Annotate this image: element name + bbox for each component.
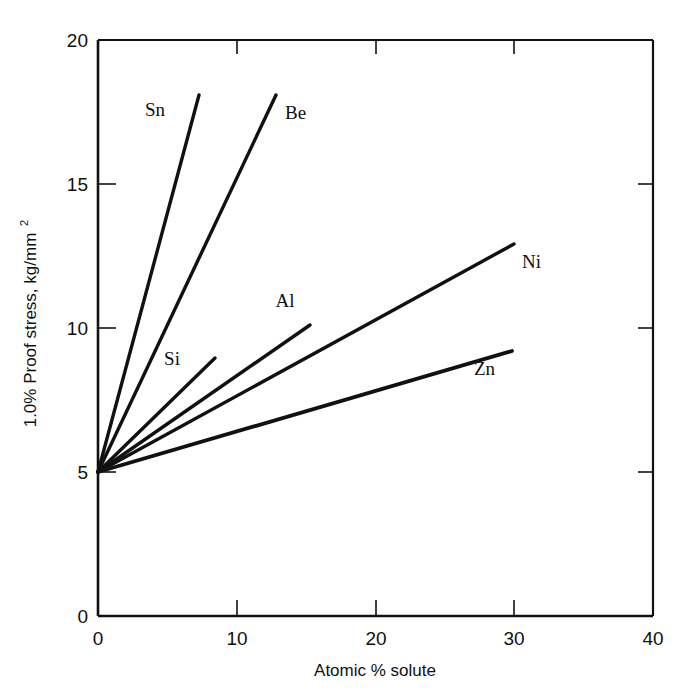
series-label-sn: Sn bbox=[145, 99, 166, 120]
y-axis-ticks-right bbox=[638, 184, 653, 472]
series-label-al: Al bbox=[276, 290, 295, 311]
x-axis-title: Atomic % solute bbox=[314, 661, 436, 680]
series-lines bbox=[98, 95, 514, 472]
y-tick-label-10: 10 bbox=[67, 318, 88, 339]
x-tick-labels: 0 10 20 30 40 bbox=[93, 628, 664, 649]
x-axis-title-group: Atomic % solute bbox=[314, 661, 436, 680]
x-tick-label-20: 20 bbox=[365, 628, 386, 649]
series-label-be: Be bbox=[285, 102, 306, 123]
chart-figure: 20 15 10 5 0 0 10 20 30 40 Atomic % solu… bbox=[0, 0, 683, 696]
y-axis-title-superscript: 2 bbox=[18, 220, 30, 226]
y-tick-label-15: 15 bbox=[67, 174, 88, 195]
x-axis-ticks-top bbox=[237, 40, 514, 54]
plot-frame bbox=[98, 40, 653, 616]
series-line-be bbox=[98, 95, 276, 472]
series-line-sn bbox=[98, 95, 199, 472]
x-tick-label-40: 40 bbox=[642, 628, 663, 649]
series-line-ni bbox=[98, 244, 514, 472]
y-tick-label-0: 0 bbox=[77, 606, 88, 627]
x-tick-label-30: 30 bbox=[503, 628, 524, 649]
series-label-si: Si bbox=[164, 348, 180, 369]
y-tick-label-5: 5 bbox=[77, 462, 88, 483]
y-axis-ticks bbox=[98, 184, 116, 472]
x-axis-ticks bbox=[237, 600, 514, 616]
y-axis-title: 1.0% Proof stress, kg/mm bbox=[21, 233, 40, 428]
y-axis-title-group: 1.0% Proof stress, kg/mm 2 bbox=[18, 220, 40, 427]
x-tick-label-0: 0 bbox=[93, 628, 104, 649]
y-tick-label-20: 20 bbox=[67, 30, 88, 51]
line-chart: 20 15 10 5 0 0 10 20 30 40 Atomic % solu… bbox=[0, 0, 683, 696]
x-tick-label-10: 10 bbox=[226, 628, 247, 649]
y-tick-labels: 20 15 10 5 0 bbox=[67, 30, 88, 627]
series-label-zn: Zn bbox=[474, 358, 496, 379]
series-label-ni: Ni bbox=[522, 251, 541, 272]
